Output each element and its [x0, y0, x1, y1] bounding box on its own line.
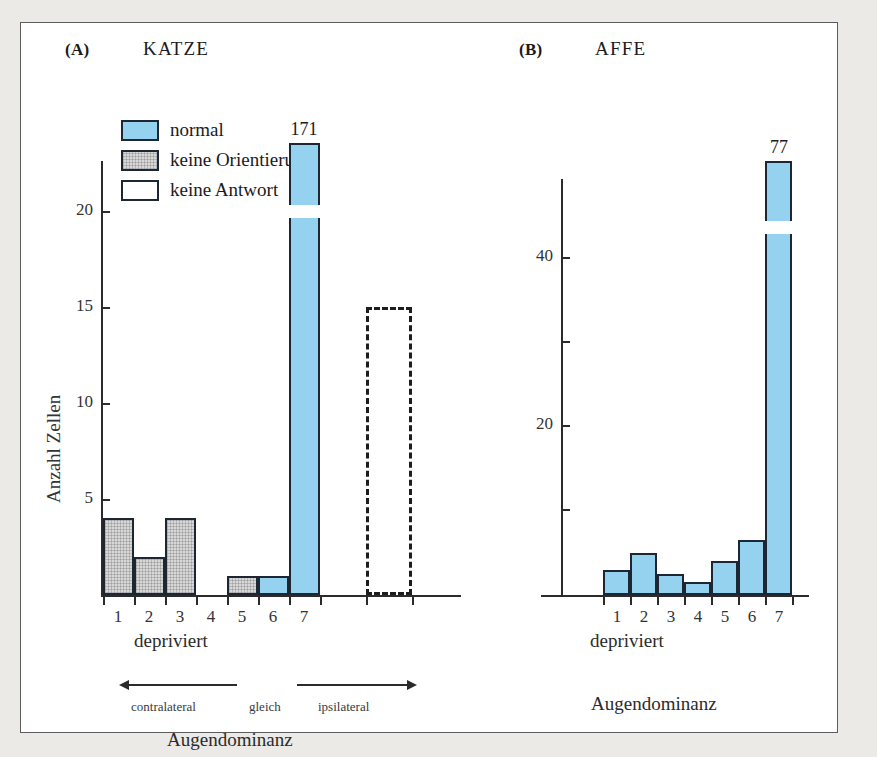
bar-b-4 [684, 582, 711, 595]
x-tick-b-edge-3 [684, 595, 686, 605]
bar-a-7-cap [289, 143, 320, 205]
bar-a-1 [103, 518, 134, 595]
arrow-contralateral-head-icon [119, 680, 129, 690]
x-tick-b-edge-6 [765, 595, 767, 605]
label-contralateral: contralateral [131, 699, 196, 715]
x-axis-a [101, 595, 461, 597]
panel-affe: (B) AFFE 40 20 1 2 3 4 5 [481, 23, 839, 732]
deprived-label-b: depriviert [590, 630, 664, 652]
x-tick-edge-7 [320, 595, 322, 605]
y-tick-label-40: 40 [519, 246, 553, 266]
y-tick-15 [101, 307, 110, 309]
x-tick-b-edge-7 [792, 595, 794, 605]
figure-frame: (A) KATZE normal keine Orientierung kein… [20, 22, 838, 733]
x-tick-edge-1 [134, 595, 136, 605]
y-tick-40 [561, 257, 570, 259]
y-tick-10 [101, 403, 110, 405]
x-tick-b-edge-4 [711, 595, 713, 605]
y-tick-30-minor [561, 341, 570, 343]
deprived-label-a: depriviert [134, 630, 208, 652]
x-axis-b [541, 595, 809, 597]
y-tick-label-5: 5 [59, 488, 93, 508]
y-tick-label-15: 15 [59, 296, 93, 316]
arrow-ipsilateral-head-icon [407, 680, 417, 690]
y-tick-5 [101, 499, 110, 501]
x-tick-edge-3 [196, 595, 198, 605]
y-tick-20 [101, 211, 110, 213]
bar-a-7-value: 171 [269, 119, 339, 140]
bar-b-1 [603, 570, 630, 595]
x-tick-label-7: 7 [292, 607, 316, 627]
y-tick-label-10: 10 [59, 392, 93, 412]
x-tick-label-b-6: 6 [740, 607, 764, 627]
bar-b-2 [630, 553, 657, 595]
x-tick-label-b-3: 3 [659, 607, 683, 627]
arrow-contralateral [129, 684, 237, 686]
x-tick-edge-2 [165, 595, 167, 605]
label-gleich: gleich [249, 699, 281, 715]
bar-a-3 [165, 518, 196, 595]
axis-label-x-b: Augendominanz [591, 693, 717, 715]
x-tick-edge-4 [227, 595, 229, 605]
x-tick-b-edge-5 [738, 595, 740, 605]
x-tick-edge-5 [258, 595, 260, 605]
arrow-ipsilateral [297, 684, 407, 686]
plot-area-katze: 20 15 10 5 1 2 3 4 5 6 7 [81, 41, 441, 616]
y-tick-label-20: 20 [59, 200, 93, 220]
x-tick-b-edge-1 [630, 595, 632, 605]
bar-b-7 [765, 234, 792, 595]
x-tick-label-b-2: 2 [632, 607, 656, 627]
bar-a-no-answer [366, 307, 412, 595]
x-tick-label-2: 2 [137, 607, 161, 627]
x-tick-edge-0 [103, 595, 105, 605]
x-tick-label-b-5: 5 [713, 607, 737, 627]
bar-b-5 [711, 561, 738, 595]
x-tick-edge-9 [412, 595, 414, 605]
bar-b-3 [657, 574, 684, 595]
x-tick-edge-6 [289, 595, 291, 605]
panel-b-tag: (B) [519, 40, 543, 60]
x-tick-edge-8 [366, 595, 368, 605]
y-axis-b [561, 179, 563, 597]
x-tick-label-b-1: 1 [605, 607, 629, 627]
x-tick-label-6: 6 [261, 607, 285, 627]
x-tick-b-edge-0 [603, 595, 605, 605]
x-tick-label-1: 1 [106, 607, 130, 627]
bar-a-2 [134, 557, 165, 595]
x-tick-label-b-4: 4 [686, 607, 710, 627]
bar-b-7-cap [765, 161, 792, 221]
bar-b-7-value: 77 [744, 137, 814, 158]
x-tick-label-b-7: 7 [767, 607, 791, 627]
x-tick-label-4: 4 [199, 607, 223, 627]
bar-a-5 [227, 576, 258, 595]
bar-a-6 [258, 576, 289, 595]
bar-b-6 [738, 540, 765, 595]
y-tick-20 [561, 425, 570, 427]
x-tick-label-3: 3 [168, 607, 192, 627]
y-tick-label-20-b: 20 [519, 414, 553, 434]
label-ipsilateral: ipsilateral [318, 699, 369, 715]
x-tick-label-5: 5 [230, 607, 254, 627]
bar-a-7 [289, 218, 320, 595]
plot-area-affe: 40 20 1 2 3 4 5 6 7 [541, 41, 809, 616]
panel-katze: (A) KATZE normal keine Orientierung kein… [21, 23, 481, 732]
y-tick-10-minor [561, 509, 570, 511]
axis-label-x-a: Augendominanz [167, 729, 293, 751]
x-tick-b-edge-2 [657, 595, 659, 605]
